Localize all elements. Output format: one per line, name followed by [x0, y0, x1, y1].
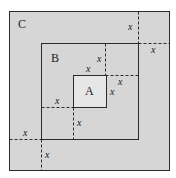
x-label: x	[96, 53, 102, 64]
label-b: B	[51, 51, 59, 65]
x-label: x	[76, 117, 82, 128]
label-a: A	[85, 84, 94, 98]
x-label: x	[150, 44, 156, 55]
x-label: x	[44, 149, 50, 160]
label-c: C	[18, 17, 26, 31]
nested-squares-diagram: C B A xxxxxxxxxx	[0, 0, 176, 178]
x-label: x	[109, 86, 115, 97]
x-label: x	[117, 76, 123, 87]
x-label: x	[85, 63, 91, 74]
x-label: x	[54, 95, 60, 106]
x-label: x	[22, 127, 28, 138]
x-label: x	[127, 21, 133, 32]
